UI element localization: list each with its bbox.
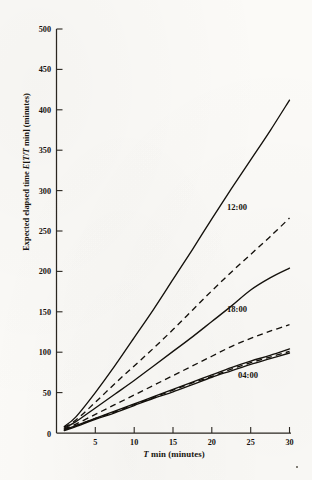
x-axis-title: T min (minutes) (57, 449, 291, 459)
y-axis-title-expectation: E (22, 164, 31, 170)
series-label-1800: 18:00 (227, 304, 247, 314)
x-tick-label-30: 30 (285, 438, 293, 447)
y-ticks-group: 500 450 400 350 300 250 200 150 100 50 0 (39, 25, 63, 439)
y-tick-label-400: 400 (39, 106, 51, 115)
y-tick-label-350: 350 (39, 146, 51, 155)
y-axis-title-bracket-close: ] (22, 129, 31, 132)
chart-plot: 500 450 400 350 300 250 200 150 100 50 0… (0, 0, 312, 480)
scan-speck (296, 466, 298, 468)
x-tick-label-10: 10 (130, 438, 138, 447)
x-tick-label-25: 25 (247, 438, 255, 447)
series-label-0400: 04:00 (238, 370, 258, 380)
curve-12-00-dashed (64, 218, 289, 427)
y-tick-label-200: 200 (39, 267, 51, 276)
x-tick-label-15: 15 (169, 438, 177, 447)
x-ticks-group: 5 10 15 20 25 30 (93, 427, 293, 447)
y-axis-title-pre: Expected elapsed time (22, 169, 31, 251)
y-axis-title: Expected elapsed time E[T/T min] (minute… (22, 52, 31, 292)
curve-18-00-solid (64, 268, 289, 428)
curves-group (64, 100, 289, 430)
x-tick-label-20: 20 (208, 438, 216, 447)
x-axis-title-min: min (149, 449, 166, 459)
y-tick-label-100: 100 (39, 348, 51, 357)
y-tick-label-250: 250 (39, 227, 51, 236)
y-tick-label-50: 50 (43, 389, 51, 398)
y-axis-title-bracket-open: [ (22, 161, 31, 164)
y-tick-label-300: 300 (39, 187, 51, 196)
curve-04-00-solid-lower (64, 353, 289, 431)
series-annotations-group: 12:00 18:00 04:00 (227, 202, 258, 380)
y-axis-title-min: min (22, 132, 31, 148)
y-axis-title-units: (minutes) (22, 93, 31, 129)
y-axis-title-variable-1: T (22, 156, 31, 161)
y-tick-label-150: 150 (39, 308, 51, 317)
y-tick-label-450: 450 (39, 65, 51, 74)
figure-container: 500 450 400 350 300 250 200 150 100 50 0… (0, 0, 312, 480)
y-axis-title-variable-2: T (22, 148, 31, 153)
y-tick-label-500: 500 (39, 25, 51, 34)
x-axis-title-units: (minutes) (166, 449, 205, 459)
series-label-1200: 12:00 (227, 202, 247, 212)
y-axis-title-slash: / (22, 153, 31, 155)
y-tick-label-0: 0 (47, 430, 51, 439)
x-tick-label-5: 5 (93, 438, 97, 447)
